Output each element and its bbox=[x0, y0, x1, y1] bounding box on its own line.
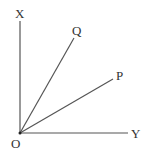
label-p: P bbox=[116, 69, 123, 82]
label-q: Q bbox=[72, 24, 81, 37]
label-x: X bbox=[15, 7, 24, 20]
label-o: O bbox=[11, 137, 20, 150]
diagram-canvas: X Q P Y O bbox=[0, 0, 146, 161]
label-y: Y bbox=[131, 127, 140, 140]
ray-oq bbox=[20, 38, 74, 133]
ray-op bbox=[20, 79, 113, 133]
origin-point bbox=[19, 132, 22, 135]
